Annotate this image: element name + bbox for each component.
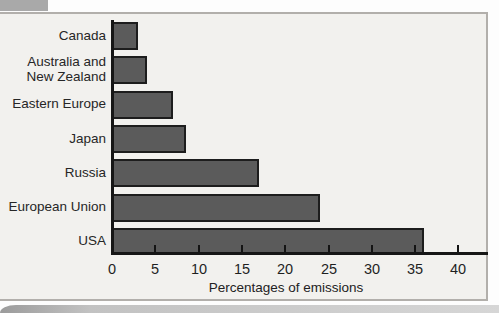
bar-usa bbox=[112, 228, 424, 254]
category-label-japan: Japan bbox=[0, 131, 106, 146]
x-tick-10 bbox=[198, 245, 200, 252]
x-tick-35 bbox=[414, 245, 416, 252]
bar-russia bbox=[112, 159, 259, 187]
x-tick-25 bbox=[328, 245, 330, 252]
x-tick-5 bbox=[154, 245, 156, 252]
x-axis-line bbox=[111, 252, 488, 255]
x-tick-label-5: 5 bbox=[140, 261, 170, 277]
x-tick-label-40: 40 bbox=[443, 261, 473, 277]
x-tick-30 bbox=[371, 245, 373, 252]
x-tick-20 bbox=[284, 245, 286, 252]
x-tick-15 bbox=[241, 245, 243, 252]
x-tick-label-35: 35 bbox=[400, 261, 430, 277]
x-tick-label-0: 0 bbox=[97, 261, 127, 277]
x-tick-label-20: 20 bbox=[270, 261, 300, 277]
bar-canada bbox=[112, 22, 138, 50]
y-axis-line bbox=[111, 20, 114, 255]
category-label-canada: Canada bbox=[0, 28, 106, 43]
category-label-russia: Russia bbox=[0, 165, 106, 180]
category-label-australia-and-new-zealand: Australia andNew Zealand bbox=[0, 54, 106, 84]
bar-european-union bbox=[112, 194, 320, 222]
bar-australia-and-new-zealand bbox=[112, 56, 147, 84]
x-axis-title: Percentages of emissions bbox=[112, 280, 460, 295]
bar-japan bbox=[112, 125, 186, 153]
x-tick-40 bbox=[457, 245, 459, 252]
category-label-eastern-europe: Eastern Europe bbox=[0, 96, 106, 111]
category-label-usa: USA bbox=[0, 233, 106, 248]
bar-chart: CanadaAustralia andNew ZealandEastern Eu… bbox=[0, 0, 499, 313]
scanned-page: CanadaAustralia andNew ZealandEastern Eu… bbox=[0, 0, 499, 313]
page-curl bbox=[0, 305, 499, 313]
bar-eastern-europe bbox=[112, 91, 173, 119]
x-tick-label-25: 25 bbox=[314, 261, 344, 277]
category-label-european-union: European Union bbox=[0, 199, 106, 214]
x-tick-label-10: 10 bbox=[184, 261, 214, 277]
x-tick-label-30: 30 bbox=[357, 261, 387, 277]
x-tick-label-15: 15 bbox=[227, 261, 257, 277]
